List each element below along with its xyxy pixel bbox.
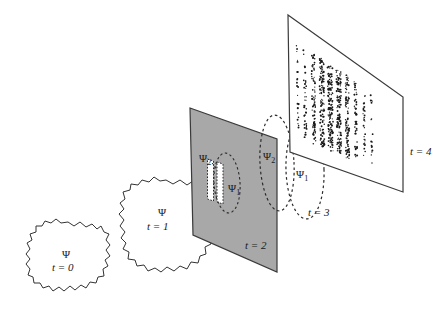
psi2-label-t3: Ψ2 [263,151,275,165]
interference-dot [331,74,333,76]
interference-dot [297,61,299,63]
interference-dot [363,102,365,104]
interference-dot [303,80,305,82]
interference-dot [363,113,364,114]
interference-dot [328,92,330,94]
interference-dot [371,141,373,143]
interference-dot [348,146,349,147]
interference-dot [323,91,325,93]
interference-dot [304,65,306,67]
interference-dot [321,73,322,74]
interference-dot [322,110,323,111]
interference-dot [322,113,324,115]
interference-dot [327,95,329,97]
interference-dot [314,129,315,130]
interference-dot [347,133,349,135]
interference-dot [340,85,341,86]
interference-dot [303,54,305,56]
interference-dot [312,56,314,58]
interference-dot [328,100,330,102]
interference-dot [338,143,339,144]
interference-dot [364,143,366,145]
interference-dot [332,146,334,148]
interference-dot [340,89,342,91]
interference-dot [332,92,334,94]
interference-dot [340,81,342,83]
interference-dot [314,95,315,96]
interference-dot [347,156,349,158]
interference-dot [336,144,338,146]
interference-dot [305,96,306,97]
interference-dot [306,108,308,110]
interference-dot [321,102,322,103]
interference-dot [354,105,355,106]
interference-dot [323,77,324,78]
interference-dot [312,109,313,110]
interference-dot [314,64,315,65]
interference-dot [363,136,364,137]
interference-dot [306,125,307,126]
interference-dot [304,72,306,74]
interference-dot [340,104,342,106]
interference-dot [329,111,330,112]
interference-dot [337,110,339,112]
interference-dot [372,133,374,135]
interference-dot [347,99,349,101]
interference-dot [314,91,316,93]
interference-dot [323,81,325,83]
interference-dot [339,106,341,108]
interference-dot [328,103,330,105]
interference-dot [339,139,340,140]
interference-dot [347,82,349,84]
interference-dot [346,138,347,139]
interference-dot [305,123,307,125]
interference-dot [331,131,333,133]
interference-dot [356,128,358,130]
interference-dot [311,71,312,72]
time-label-t0: t = 0 [52,262,73,273]
interference-dot [364,140,365,141]
interference-dot [346,79,348,81]
interference-dot [321,141,323,143]
time-label-t4: t = 4 [410,146,431,157]
interference-dot [356,141,358,143]
interference-dot [356,93,358,95]
interference-dot [319,122,321,124]
interference-dot [354,89,355,90]
interference-dot [303,106,305,108]
interference-dot [298,125,299,126]
interference-dot [305,100,306,101]
interference-dot [314,112,315,113]
interference-dot [328,114,329,115]
interference-dot [329,97,330,98]
interference-dot [337,135,338,136]
interference-dot [297,60,298,61]
interference-dot [321,69,323,71]
interference-dot [339,75,340,76]
interference-dot [297,123,298,124]
interference-dot [364,110,365,111]
interference-dot [314,86,315,87]
interference-dot [339,113,341,115]
interference-dot [323,95,324,96]
interference-dot [311,78,313,80]
interference-dot [320,116,321,117]
interference-dot [347,77,348,78]
interference-dot [321,71,323,73]
interference-dot [329,141,330,142]
interference-dot [364,133,366,135]
interference-dot [328,81,330,83]
interference-dot [346,121,348,123]
psi2-glyph-barrier: Ψ [199,152,207,164]
interference-dot [331,144,333,146]
interference-dot [314,58,316,60]
interference-dot [337,115,338,116]
interference-dot [328,128,330,130]
interference-dot [324,124,325,125]
interference-dot [323,146,324,147]
interference-dot [320,130,321,131]
interference-dot [328,131,329,132]
interference-dot [348,148,350,150]
interference-dot [320,58,322,60]
interference-dot [319,78,321,80]
